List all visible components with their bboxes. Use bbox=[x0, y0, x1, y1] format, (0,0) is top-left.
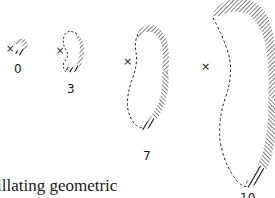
hatched-band-bold bbox=[14, 48, 26, 56]
figure-caption: illating geometric bbox=[0, 177, 117, 194]
dashed-boundary bbox=[128, 34, 143, 128]
panel-label-10: 10 bbox=[240, 192, 255, 198]
panel-0: × bbox=[6, 38, 28, 55]
hatched-band-bold bbox=[66, 64, 80, 73]
hatched-band-light bbox=[212, 0, 275, 100]
hatched-band-light bbox=[136, 25, 169, 72]
origin-marker-icon: × bbox=[56, 45, 64, 56]
hatched-band-light bbox=[75, 34, 84, 66]
hatched-band-mid bbox=[258, 96, 275, 170]
panel-7: × bbox=[123, 25, 169, 130]
origin-marker-icon: × bbox=[6, 43, 14, 54]
panel-label-3: 3 bbox=[67, 83, 75, 95]
panel-3: × bbox=[56, 31, 84, 72]
dashed-boundary bbox=[63, 31, 77, 72]
panel-label-0: 0 bbox=[14, 63, 22, 75]
hatched-band-light bbox=[14, 38, 28, 50]
figure-canvas: × × × × bbox=[0, 0, 275, 198]
panel-label-7: 7 bbox=[143, 150, 151, 162]
hatched-band-mid bbox=[151, 70, 169, 120]
dashed-boundary bbox=[213, 18, 248, 187]
origin-marker-icon: × bbox=[201, 60, 210, 73]
origin-marker-icon: × bbox=[123, 55, 132, 68]
panel-10: × bbox=[201, 0, 275, 188]
